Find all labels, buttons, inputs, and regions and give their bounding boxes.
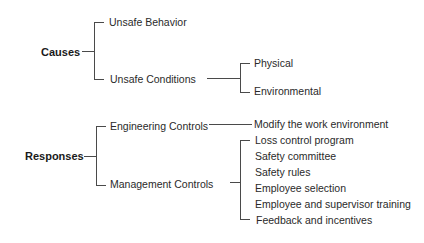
node-employee-supervisor-training: Employee and supervisor training (255, 198, 411, 210)
connector-line (209, 124, 252, 125)
node-feedback-incentives: Feedback and incentives (256, 214, 372, 226)
connector-line (230, 182, 240, 183)
connector-line (94, 79, 104, 80)
responses-label: Responses (25, 150, 84, 162)
causes-label: Causes (41, 46, 80, 58)
connector-line (84, 156, 96, 157)
node-modify-work-environment: Modify the work environment (254, 118, 388, 130)
connector-line (94, 22, 104, 23)
node-safety-committee: Safety committee (255, 150, 336, 162)
connector-line (96, 126, 106, 127)
bracket-line (96, 126, 97, 186)
node-engineering-controls: Engineering Controls (110, 120, 208, 132)
bracket-line (94, 22, 95, 80)
bracket-line (240, 63, 241, 93)
connector-line (82, 51, 94, 52)
connector-line (240, 219, 250, 220)
connector-line (240, 63, 250, 64)
node-environmental: Environmental (254, 85, 321, 97)
node-unsafe-conditions: Unsafe Conditions (110, 73, 196, 85)
connector-line (96, 185, 106, 186)
node-management-controls: Management Controls (110, 178, 213, 190)
node-safety-rules: Safety rules (255, 166, 310, 178)
connector-line (207, 78, 240, 79)
connector-line (240, 140, 250, 141)
node-unsafe-behavior: Unsafe Behavior (109, 16, 187, 28)
connector-line (240, 92, 250, 93)
node-physical: Physical (254, 57, 293, 69)
bracket-line (240, 140, 241, 220)
node-employee-selection: Employee selection (255, 182, 346, 194)
node-loss-control-program: Loss control program (255, 134, 354, 146)
